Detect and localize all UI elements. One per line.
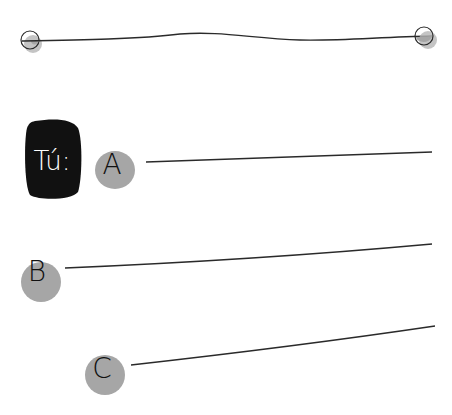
- top-line-group: [21, 27, 437, 53]
- you-label: Tú:: [33, 146, 70, 176]
- option-a-answer-line[interactable]: [146, 152, 432, 162]
- you-badge: Tú:: [25, 119, 81, 198]
- option-b[interactable]: B: [21, 244, 432, 302]
- option-c-answer-line[interactable]: [131, 326, 435, 365]
- option-a[interactable]: A: [95, 148, 432, 189]
- option-c-letter: C: [92, 352, 112, 385]
- option-b-answer-line[interactable]: [65, 244, 432, 268]
- option-c[interactable]: C: [85, 326, 435, 395]
- top-wavy-line: [22, 33, 432, 41]
- worksheet-canvas: Tú: A B C: [0, 0, 452, 415]
- option-b-letter: B: [28, 255, 46, 288]
- option-a-letter: A: [102, 148, 121, 181]
